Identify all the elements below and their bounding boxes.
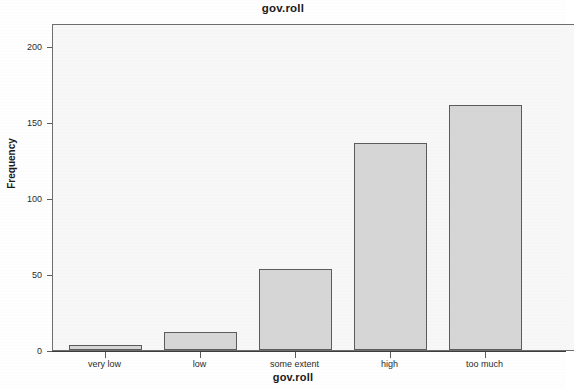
bar-low	[164, 332, 237, 350]
x-tick-mark	[200, 352, 201, 358]
bars-container	[53, 25, 574, 350]
y-tick-label: 150	[10, 118, 42, 128]
x-tick-mark	[295, 352, 296, 358]
y-tick-label: 0	[10, 346, 42, 356]
x-tick-mark	[105, 352, 106, 358]
x-tick-label-very-low: very low	[88, 359, 121, 369]
x-tick-mark	[390, 352, 391, 358]
y-tick-label: 200	[10, 42, 42, 52]
bar-very-low	[69, 345, 142, 350]
x-tick-label-high: high	[381, 359, 398, 369]
bar-some-extent	[259, 269, 332, 350]
y-tick-label: 100	[10, 194, 42, 204]
x-tick-label-low: low	[193, 359, 207, 369]
y-tick-label: 50	[10, 270, 42, 280]
x-axis-title: gov.roll	[52, 371, 534, 383]
bar-too-much	[449, 105, 522, 350]
y-axis-title-label: Frequency	[6, 138, 17, 189]
bar-high	[354, 143, 427, 350]
x-tick-label-too-much: too much	[466, 359, 503, 369]
x-tick-mark	[485, 352, 486, 358]
plot-area	[52, 24, 574, 351]
x-tick-label-some-extent: some extent	[270, 359, 319, 369]
x-axis-line	[52, 351, 566, 352]
chart-title: gov.roll	[0, 2, 566, 14]
